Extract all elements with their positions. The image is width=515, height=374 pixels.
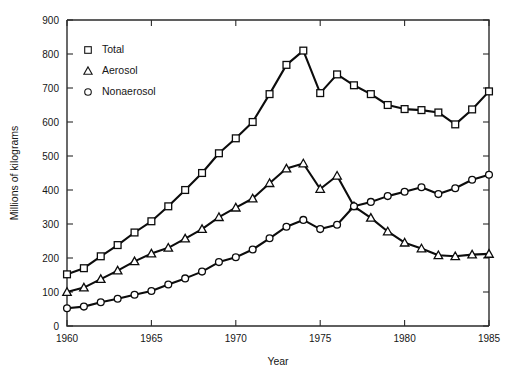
marker-circle xyxy=(300,217,307,224)
marker-circle xyxy=(199,268,206,275)
y-tick-label: 400 xyxy=(42,185,59,196)
marker-square xyxy=(114,242,121,249)
marker-triangle xyxy=(333,171,342,179)
marker-square xyxy=(401,106,408,113)
y-tick-label: 200 xyxy=(42,253,59,264)
marker-square xyxy=(486,88,493,95)
marker-circle xyxy=(80,303,87,310)
marker-circle xyxy=(64,305,71,312)
marker-triangle xyxy=(299,159,308,167)
marker-square xyxy=(351,82,358,89)
y-tick-label: 700 xyxy=(42,83,59,94)
legend-marker-triangle xyxy=(84,67,92,74)
y-tick-label: 900 xyxy=(42,15,59,26)
legend-marker-square xyxy=(85,47,92,54)
legend-label: Total xyxy=(102,43,124,55)
x-tick-label: 1975 xyxy=(309,333,332,344)
y-tick-label: 100 xyxy=(42,287,59,298)
marker-square xyxy=(334,71,341,78)
marker-square xyxy=(199,170,206,177)
marker-square xyxy=(367,91,374,98)
y-tick-label: 0 xyxy=(53,321,59,332)
x-tick-label: 1960 xyxy=(56,333,79,344)
marker-square xyxy=(249,119,256,126)
marker-square xyxy=(384,102,391,109)
series-total xyxy=(64,47,493,278)
marker-square xyxy=(131,229,138,236)
marker-square xyxy=(418,107,425,114)
marker-circle xyxy=(351,203,358,210)
marker-square xyxy=(165,203,172,210)
y-tick-label: 600 xyxy=(42,117,59,128)
marker-square xyxy=(452,121,459,128)
marker-circle xyxy=(384,193,391,200)
marker-circle xyxy=(283,223,290,230)
marker-triangle xyxy=(215,213,224,221)
marker-circle xyxy=(131,291,138,298)
series-nonaerosol xyxy=(64,171,493,311)
marker-circle xyxy=(114,295,121,302)
marker-square xyxy=(283,61,290,68)
y-tick-label: 800 xyxy=(42,49,59,60)
x-tick-label: 1970 xyxy=(225,333,248,344)
series-line xyxy=(67,163,489,292)
marker-circle xyxy=(266,235,273,242)
x-axis-title: Year xyxy=(267,355,289,367)
y-axis-title: Millions of kilograms xyxy=(8,126,20,221)
legend-label: Aerosol xyxy=(102,64,138,76)
legend-item-nonaerosol: Nonaerosol xyxy=(85,85,156,97)
marker-circle xyxy=(469,176,476,183)
legend-marker-circle xyxy=(85,89,92,96)
marker-square xyxy=(182,187,189,194)
marker-square xyxy=(317,90,324,97)
marker-circle xyxy=(97,299,104,306)
marker-circle xyxy=(182,275,189,282)
line-chart: 0100200300400500600700800900196019651970… xyxy=(0,0,515,374)
marker-square xyxy=(216,150,223,157)
x-tick-label: 1985 xyxy=(478,333,501,344)
legend-item-total: Total xyxy=(85,43,124,55)
x-tick-label: 1980 xyxy=(393,333,416,344)
marker-square xyxy=(266,91,273,98)
marker-circle xyxy=(452,185,459,192)
marker-circle xyxy=(435,191,442,198)
marker-square xyxy=(300,47,307,54)
marker-square xyxy=(435,109,442,116)
series-aerosol xyxy=(63,159,494,295)
marker-circle xyxy=(401,188,408,195)
marker-circle xyxy=(317,226,324,233)
marker-square xyxy=(232,135,239,142)
marker-square xyxy=(97,253,104,260)
legend-item-aerosol: Aerosol xyxy=(84,64,138,76)
marker-square xyxy=(148,218,155,225)
marker-circle xyxy=(334,221,341,228)
x-tick-label: 1965 xyxy=(140,333,163,344)
marker-square xyxy=(469,106,476,113)
marker-circle xyxy=(249,246,256,253)
marker-circle xyxy=(232,254,239,261)
series-line xyxy=(67,175,489,309)
marker-triangle xyxy=(181,234,190,242)
marker-circle xyxy=(486,171,493,178)
marker-circle xyxy=(418,184,425,191)
legend-label: Nonaerosol xyxy=(102,85,156,97)
y-tick-label: 500 xyxy=(42,151,59,162)
marker-circle xyxy=(148,288,155,295)
marker-circle xyxy=(367,199,374,206)
marker-circle xyxy=(165,281,172,288)
chart-legend: TotalAerosolNonaerosol xyxy=(84,43,156,97)
marker-square xyxy=(80,265,87,272)
chart-container: 0100200300400500600700800900196019651970… xyxy=(0,0,515,374)
y-tick-label: 300 xyxy=(42,219,59,230)
marker-square xyxy=(64,271,71,278)
marker-circle xyxy=(216,259,223,266)
